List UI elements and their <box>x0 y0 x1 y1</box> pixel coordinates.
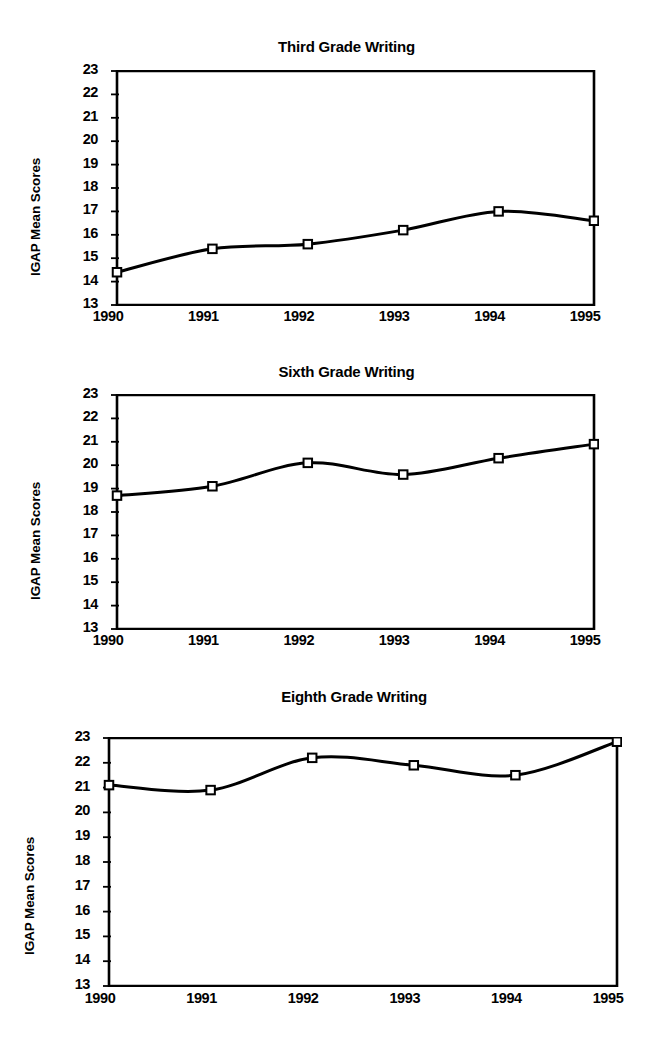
data-point-marker <box>308 754 317 763</box>
y-axis-tick-label: 21 <box>56 432 98 448</box>
y-axis-tick-label: 17 <box>56 525 98 541</box>
data-point-marker <box>613 737 622 746</box>
data-point-marker <box>208 245 217 254</box>
y-axis-tick-label: 14 <box>48 951 90 967</box>
x-axis-tick-label: 1991 <box>169 632 237 648</box>
y-axis-tick-label: 19 <box>56 155 98 171</box>
data-point-marker <box>208 482 217 491</box>
y-axis-tick-label: 21 <box>56 108 98 124</box>
data-point-marker <box>105 781 114 790</box>
data-point-marker <box>511 771 520 780</box>
y-axis-tick-label: 22 <box>48 753 90 769</box>
x-axis-tick-label: 1993 <box>360 632 428 648</box>
y-axis-tick-label: 23 <box>56 61 98 77</box>
y-axis-tick-label: 20 <box>56 455 98 471</box>
y-axis-tick-label: 16 <box>48 902 90 918</box>
x-axis-tick-label: 1994 <box>472 990 540 1006</box>
data-series-line <box>109 742 617 792</box>
x-axis-tick-label: 1991 <box>168 990 236 1006</box>
data-point-marker <box>304 459 313 468</box>
x-axis-tick-label: 1990 <box>74 308 142 324</box>
y-axis-tick-label: 22 <box>56 84 98 100</box>
y-axis-tick-label: 16 <box>56 225 98 241</box>
x-axis-tick-label: 1994 <box>456 308 524 324</box>
x-axis-tick-label: 1990 <box>74 632 142 648</box>
y-axis-tick-label: 19 <box>56 479 98 495</box>
data-point-marker <box>399 226 408 235</box>
plot-svg <box>108 70 599 306</box>
chart-title: Sixth Grade Writing <box>108 363 585 380</box>
data-point-marker <box>410 761 419 770</box>
x-axis-tick-label: 1992 <box>269 990 337 1006</box>
y-axis-tick-label: 15 <box>48 926 90 942</box>
y-axis-label: IGAP Mean Scores <box>28 482 43 600</box>
data-series-line <box>117 444 594 495</box>
x-axis-tick-label: 1992 <box>265 308 333 324</box>
data-point-marker <box>494 207 503 216</box>
plot-area <box>108 394 585 628</box>
data-point-marker <box>590 440 599 449</box>
x-axis-tick-label: 1995 <box>551 632 619 648</box>
data-point-marker <box>113 268 122 277</box>
y-axis-tick-label: 16 <box>56 549 98 565</box>
y-axis-tick-label: 20 <box>48 802 90 818</box>
y-axis-tick-label: 23 <box>48 728 90 744</box>
x-axis-tick-label: 1992 <box>265 632 333 648</box>
x-axis-tick-label: 1995 <box>551 308 619 324</box>
data-point-marker <box>494 454 503 463</box>
y-axis-tick-label: 18 <box>56 178 98 194</box>
chart-title: Eighth Grade Writing <box>100 688 608 705</box>
x-axis-tick-label: 1990 <box>66 990 134 1006</box>
y-axis-tick-label: 14 <box>56 596 98 612</box>
y-axis-tick-label: 18 <box>48 852 90 868</box>
x-axis-tick-label: 1994 <box>456 632 524 648</box>
y-axis-tick-label: 18 <box>56 502 98 518</box>
data-point-marker <box>590 217 599 226</box>
data-point-marker <box>399 470 408 479</box>
plot-area <box>108 70 585 304</box>
y-axis-tick-label: 22 <box>56 408 98 424</box>
y-axis-tick-label: 21 <box>48 778 90 794</box>
y-axis-tick-label: 20 <box>56 131 98 147</box>
plot-area <box>100 737 608 985</box>
y-axis-label: IGAP Mean Scores <box>22 837 37 955</box>
chart-title: Third Grade Writing <box>108 38 585 55</box>
x-axis-tick-label: 1993 <box>360 308 428 324</box>
data-point-marker <box>304 240 313 249</box>
plot-frame <box>117 71 594 305</box>
y-axis-tick-label: 15 <box>56 572 98 588</box>
y-axis-tick-label: 17 <box>56 201 98 217</box>
y-axis-label: IGAP Mean Scores <box>28 158 43 276</box>
y-axis-tick-label: 15 <box>56 248 98 264</box>
plot-svg <box>100 737 622 987</box>
x-axis-tick-label: 1995 <box>574 990 642 1006</box>
y-axis-tick-label: 23 <box>56 385 98 401</box>
x-axis-tick-label: 1991 <box>169 308 237 324</box>
plot-frame <box>117 395 594 629</box>
plot-svg <box>108 394 599 630</box>
plot-frame <box>109 738 617 986</box>
y-axis-tick-label: 19 <box>48 827 90 843</box>
data-series-line <box>117 211 594 272</box>
y-axis-tick-label: 14 <box>56 272 98 288</box>
x-axis-tick-label: 1993 <box>371 990 439 1006</box>
y-axis-tick-label: 17 <box>48 877 90 893</box>
data-point-marker <box>113 491 122 500</box>
data-point-marker <box>206 786 215 795</box>
